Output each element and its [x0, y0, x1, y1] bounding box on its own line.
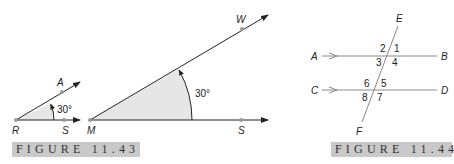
label-c: C: [311, 85, 319, 96]
angle-7: 7: [377, 92, 383, 103]
point-s: [62, 118, 66, 122]
transversal-ef: [362, 26, 398, 122]
angle-1: 1: [394, 43, 400, 54]
caption-figure-11-44: FIGURE 11.44: [331, 142, 452, 157]
point-s2: [239, 118, 243, 122]
parallel-lines-figure: E F A B C D 2 1 3 4 6 5 8 7: [310, 13, 448, 137]
angle-mws: W M S 30°: [87, 14, 268, 136]
angle-3: 3: [376, 57, 382, 68]
angle-ras: A R S 30°: [12, 77, 80, 136]
label-s: S: [62, 125, 69, 136]
label-s2: S: [238, 125, 245, 136]
label-a: A: [310, 51, 318, 62]
angle-4: 4: [392, 57, 398, 68]
diagram-canvas: A R S 30° W M S 30° E F A B C D 2 1 3 4 …: [0, 0, 454, 164]
label-w: W: [236, 14, 247, 25]
point-r: [14, 118, 18, 122]
point-w: [240, 27, 244, 31]
caption-figure-11-43: FIGURE 11.43: [12, 142, 140, 157]
point-a: [60, 90, 64, 94]
label-e: E: [396, 13, 403, 24]
label-d: D: [441, 85, 448, 96]
point-m: [88, 118, 92, 122]
angle-8: 8: [362, 92, 368, 103]
angle-value: 30°: [57, 104, 72, 115]
label-a: A: [56, 77, 64, 88]
angle-shade: [16, 104, 54, 120]
label-r: R: [12, 125, 19, 136]
angle-5: 5: [381, 78, 387, 89]
angle-shade: [90, 69, 192, 120]
angle-value: 30°: [195, 88, 210, 99]
angle-6: 6: [364, 78, 370, 89]
label-m: M: [87, 125, 96, 136]
angle-2: 2: [380, 43, 386, 54]
label-b: B: [441, 51, 448, 62]
label-f: F: [356, 126, 363, 137]
